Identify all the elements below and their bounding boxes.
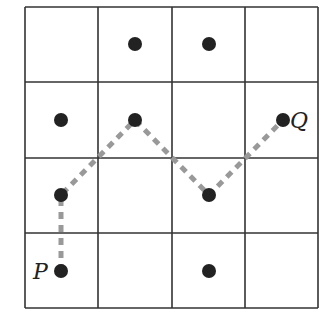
grid-point — [202, 188, 216, 202]
label-q: Q — [290, 108, 308, 133]
grid-point — [54, 188, 68, 202]
grid-point — [202, 37, 216, 51]
grid-point — [202, 264, 216, 278]
grid-point — [54, 264, 68, 278]
grid-point — [128, 37, 142, 51]
grid-point — [128, 113, 142, 127]
grid-point — [276, 113, 290, 127]
label-p: P — [32, 259, 49, 284]
grid-point — [54, 113, 68, 127]
grid-path-diagram: P Q — [0, 0, 333, 327]
grid — [25, 7, 318, 308]
